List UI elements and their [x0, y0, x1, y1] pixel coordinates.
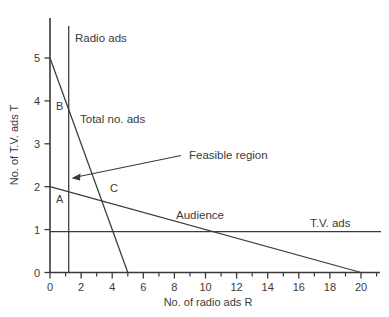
y-tick-label-3: 3 [34, 138, 40, 150]
y-tick-label-1: 1 [34, 224, 40, 236]
x-tick-label-14: 14 [262, 281, 274, 293]
vertex-label-c: C [110, 182, 118, 194]
y-tick-labels-group: 0 1 2 3 4 5 [34, 52, 40, 279]
feasible-region-arrowhead [72, 174, 81, 181]
total-no-ads-constraint-line [50, 58, 128, 273]
vertex-label-b: B [56, 100, 63, 112]
y-ticks-group [45, 58, 51, 273]
x-tick-label-6: 6 [140, 281, 146, 293]
x-tick-labels-group: 0 2 4 6 8 10 12 14 16 18 20 [47, 281, 367, 293]
x-tick-label-12: 12 [230, 281, 242, 293]
x-tick-label-20: 20 [355, 281, 367, 293]
linear-programming-chart: 0 1 2 3 4 5 [0, 0, 389, 317]
y-tick-label-5: 5 [34, 52, 40, 64]
x-tick-label-16: 16 [293, 281, 305, 293]
x-tick-label-10: 10 [199, 281, 211, 293]
x-tick-label-4: 4 [109, 281, 115, 293]
x-axis-title: No. of radio ads R [164, 296, 253, 308]
series-labels-group: Radio ads Total no. ads Audience T.V. ad… [75, 32, 351, 229]
radio-ads-label: Radio ads [75, 32, 127, 44]
tv-ads-label: T.V. ads [310, 217, 351, 229]
total-no-ads-label: Total no. ads [80, 113, 145, 125]
y-tick-label-0: 0 [34, 267, 40, 279]
x-tick-label-0: 0 [47, 281, 53, 293]
y-tick-label-4: 4 [34, 95, 40, 107]
feasible-region-annotation: Feasible region [72, 149, 268, 180]
x-tick-label-2: 2 [78, 281, 84, 293]
x-tick-label-18: 18 [324, 281, 336, 293]
y-axis-title: No. of T.V. ads T [8, 104, 20, 185]
axis-titles-group: No. of T.V. ads T No. of radio ads R [8, 104, 252, 308]
y-tick-label-2: 2 [34, 181, 40, 193]
feasible-region-leader-line [74, 156, 181, 178]
audience-constraint-line [50, 187, 361, 273]
axes-group [50, 18, 380, 273]
x-tick-label-8: 8 [171, 281, 177, 293]
vertex-label-a: A [56, 193, 64, 205]
feasible-region-label: Feasible region [189, 149, 268, 161]
audience-label: Audience [176, 209, 224, 221]
chart-svg: 0 1 2 3 4 5 [0, 0, 389, 317]
x-ticks-group [50, 273, 377, 279]
